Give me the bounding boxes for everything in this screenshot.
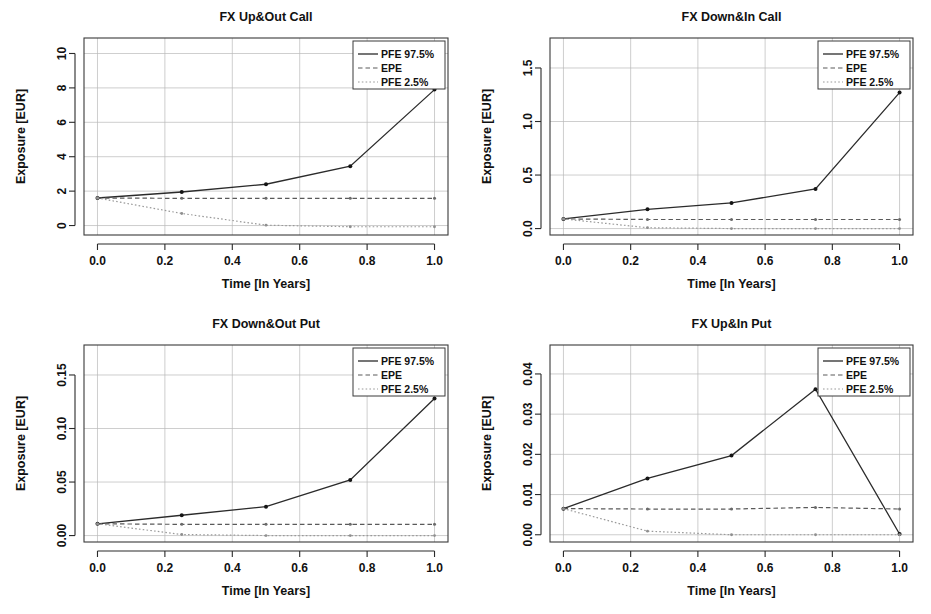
y-tick-label: 1.0 [521, 113, 535, 130]
chart-svg: FX Down&Out Put0.00.20.40.60.81.0Time [I… [0, 307, 466, 614]
data-point [180, 190, 184, 194]
x-axis-title: Time [In Years] [687, 584, 775, 598]
chart-svg: FX Up&Out Call0.00.20.40.60.81.0Time [In… [0, 0, 466, 307]
x-tick-label: 1.0 [891, 561, 908, 575]
data-point [264, 505, 268, 509]
x-tick-label: 0.0 [555, 561, 572, 575]
chart-title: FX Down&Out Put [212, 317, 320, 331]
series-pfe-2-5 [562, 507, 901, 536]
data-point [814, 387, 818, 391]
x-tick-label: 1.0 [426, 254, 443, 268]
data-point [814, 227, 817, 230]
series-epe [562, 217, 901, 221]
data-point [898, 91, 902, 95]
chart-panel-fx-down-out-put: FX Down&Out Put0.00.20.40.60.81.0Time [I… [0, 307, 466, 614]
x-tick-label: 0.4 [224, 254, 241, 268]
y-tick-label: 2 [55, 187, 69, 194]
data-point [814, 506, 817, 509]
data-point [814, 218, 817, 221]
x-tick-label: 0.0 [89, 561, 106, 575]
chart-svg: FX Up&In Put0.00.20.40.60.81.0Time [In Y… [466, 307, 931, 614]
data-point [898, 508, 901, 511]
chart-title: FX Up&In Put [692, 317, 773, 331]
y-axis-title: Exposure [EUR] [480, 396, 494, 491]
y-axis: 0.000.050.100.15 [55, 363, 75, 547]
x-tick-label: 0.2 [157, 561, 174, 575]
y-tick-label: 10 [55, 46, 69, 60]
data-point [265, 523, 268, 526]
data-point [730, 218, 733, 221]
chart-legend: PFE 97.5%EPEPFE 2.5% [818, 41, 910, 89]
data-point [730, 533, 733, 536]
legend-label: EPE [846, 62, 867, 74]
y-tick-label: 0 [55, 222, 69, 229]
y-axis-title: Exposure [EUR] [14, 396, 28, 491]
x-axis: 0.00.20.40.60.81.0 [555, 551, 908, 575]
x-tick-label: 0.2 [622, 561, 639, 575]
y-tick-label: 0.02 [521, 442, 535, 466]
x-tick-label: 0.4 [690, 561, 707, 575]
data-point [265, 224, 268, 227]
legend-label: PFE 2.5% [846, 76, 894, 88]
legend-label: PFE 2.5% [846, 383, 894, 395]
y-tick-label: 0.00 [521, 523, 535, 547]
data-point [646, 218, 649, 221]
legend-label: PFE 97.5% [381, 48, 435, 60]
x-axis: 0.00.20.40.60.81.0 [89, 551, 443, 575]
x-tick-label: 0.0 [89, 254, 106, 268]
chart-legend: PFE 97.5%EPEPFE 2.5% [353, 41, 445, 89]
x-tick-label: 0.6 [291, 254, 308, 268]
x-axis-title: Time [In Years] [687, 277, 775, 291]
y-tick-label: 6 [55, 119, 69, 126]
y-tick-label: 0.5 [521, 166, 535, 183]
series-pfe-2-5 [96, 197, 436, 229]
y-tick-label: 0.04 [521, 362, 535, 386]
y-axis: 0246810 [55, 46, 75, 228]
data-point [898, 218, 901, 221]
x-tick-label: 0.6 [291, 561, 308, 575]
data-point [646, 508, 649, 511]
y-tick-label: 0.0 [521, 220, 535, 237]
chart-svg: FX Down&In Call0.00.20.40.60.81.0Time [I… [466, 0, 931, 307]
series-epe [96, 522, 436, 526]
series-epe [562, 506, 901, 511]
data-point [180, 523, 183, 526]
x-tick-label: 0.6 [757, 254, 774, 268]
data-point [264, 182, 268, 186]
data-point [730, 454, 734, 458]
legend-label: PFE 97.5% [846, 48, 900, 60]
chart-panel-fx-up-out-call: FX Up&Out Call0.00.20.40.60.81.0Time [In… [0, 0, 466, 307]
chart-panel-fx-up-in-put: FX Up&In Put0.00.20.40.60.81.0Time [In Y… [466, 307, 931, 614]
x-tick-label: 0.8 [824, 561, 841, 575]
data-point [349, 197, 352, 200]
x-axis-title: Time [In Years] [222, 584, 310, 598]
data-point [646, 226, 649, 229]
y-tick-label: 0.01 [521, 483, 535, 507]
legend-label: EPE [381, 369, 402, 381]
data-point [898, 227, 901, 230]
data-point [433, 397, 437, 401]
x-tick-label: 0.0 [555, 254, 572, 268]
series-pfe-97-5 [561, 91, 901, 221]
legend-label: PFE 2.5% [381, 76, 429, 88]
y-tick-label: 4 [55, 153, 69, 160]
x-tick-label: 0.2 [622, 254, 639, 268]
legend-label: EPE [381, 62, 402, 74]
y-axis-title: Exposure [EUR] [480, 89, 494, 184]
data-point [265, 197, 268, 200]
data-point [180, 533, 183, 536]
data-point [730, 227, 733, 230]
x-tick-label: 0.8 [824, 254, 841, 268]
series-pfe-97-5 [95, 397, 436, 526]
chart-legend: PFE 97.5%EPEPFE 2.5% [818, 348, 910, 396]
x-tick-label: 0.2 [157, 254, 174, 268]
x-tick-label: 1.0 [426, 561, 443, 575]
data-point [265, 534, 268, 537]
chart-title: FX Up&Out Call [219, 10, 312, 24]
data-point [562, 218, 565, 221]
data-point [814, 187, 818, 191]
y-tick-label: 0.00 [55, 524, 69, 548]
x-tick-label: 0.6 [757, 561, 774, 575]
x-axis: 0.00.20.40.60.81.0 [89, 244, 443, 268]
data-point [562, 507, 565, 510]
